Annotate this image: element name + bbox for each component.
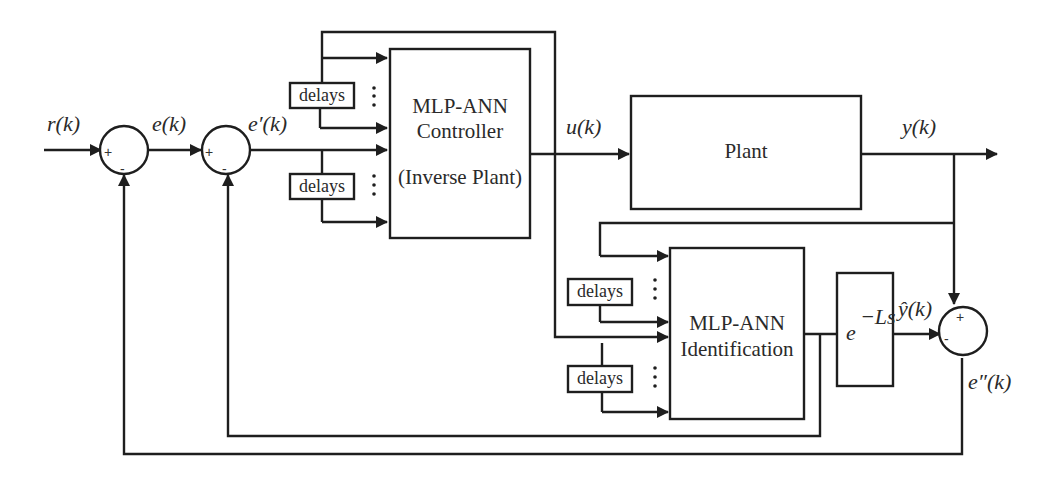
identification-label-line1: MLP-ANN (689, 311, 785, 335)
delays-label: delays (577, 368, 623, 388)
identification-block: MLP-ANN Identification (670, 248, 804, 419)
delay-tf-base: e (846, 320, 856, 345)
delays-label: delays (299, 176, 345, 196)
ellipsis-ident-upper (653, 278, 657, 300)
minus-sign: - (944, 331, 949, 347)
delays-box-controller-upper: delays (290, 83, 354, 108)
ellipsis-controller-lower (372, 174, 376, 196)
delays-label: delays (577, 281, 623, 301)
plant-label: Plant (724, 139, 767, 163)
controller-label-line1: MLP-ANN (412, 94, 508, 118)
sum-junction-3: + - (939, 307, 987, 355)
plus-sign: + (104, 144, 112, 160)
signal-label-y-hat: ŷ(k) (896, 296, 932, 321)
sum-junction-1: + - (100, 126, 148, 177)
plus-sign: + (205, 144, 213, 160)
delays-box-ident-lower: delays (568, 366, 632, 392)
ellipsis-ident-lower (653, 366, 657, 388)
identification-label-line2: Identification (680, 337, 794, 361)
delays-box-ident-upper: delays (568, 279, 632, 305)
signal-label-y: y(k) (900, 114, 936, 139)
minus-sign: - (120, 161, 125, 177)
controller-label-line3: (Inverse Plant) (398, 165, 522, 189)
minus-sign: - (222, 161, 227, 177)
signal-label-u: u(k) (566, 114, 601, 139)
ellipsis-controller-upper (372, 86, 376, 107)
plant-block: Plant (631, 96, 861, 209)
controller-block: MLP-ANN Controller (Inverse Plant) (390, 49, 530, 238)
plus-sign: + (956, 309, 964, 325)
controller-label-line2: Controller (417, 119, 503, 143)
transport-delay-block: e −Ls (837, 273, 896, 386)
signal-label-e-prime: e′(k) (248, 111, 287, 136)
delays-box-controller-lower: delays (290, 174, 354, 199)
signal-label-e-double-prime: e″(k) (968, 369, 1011, 394)
delay-tf-exponent: −Ls (860, 304, 896, 329)
sum-junction-2: + - (202, 126, 250, 177)
control-block-diagram: + - + - + - MLP-ANN Controller (Inverse … (0, 0, 1053, 481)
signal-label-r: r(k) (47, 111, 80, 136)
delays-label: delays (299, 85, 345, 105)
signal-label-e: e(k) (152, 111, 186, 136)
